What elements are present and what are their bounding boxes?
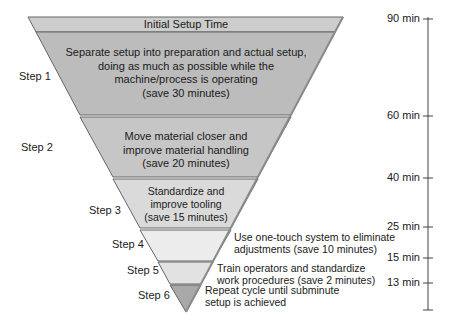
step-2-line-1: Move material closer and (123, 130, 249, 144)
band-step-4 (140, 230, 231, 261)
step-6-line-2: setup is achieved (205, 296, 339, 308)
step-2-description: Move material closer and improve materia… (123, 130, 249, 171)
step-1-label: Step 1 (19, 70, 51, 83)
scale-label-25: 25 min (370, 220, 420, 232)
band-step-6 (170, 285, 201, 312)
scale-label-15: 15 min (370, 251, 420, 263)
step-5-line-1: Train operators and standardize (217, 262, 375, 274)
scale-label-40: 40 min (370, 171, 420, 183)
step-3-label: Step 3 (89, 204, 121, 217)
step-1-line-3: machine/process is operating (66, 73, 307, 87)
step-3-line-1: Standardize and (144, 185, 227, 198)
scale-label-90: 90 min (370, 12, 420, 24)
step-1-line-1: Separate setup into preparation and actu… (66, 46, 307, 60)
step-3-description: Standardize and improve tooling (save 15… (144, 185, 227, 224)
step-1-description: Separate setup into preparation and actu… (66, 46, 307, 100)
step-1-line-2: doing as much as possible while the (66, 60, 307, 74)
band-step-5 (158, 262, 213, 284)
step-4-line-1: Use one-touch system to eliminate (234, 231, 395, 243)
step-6-label: Step 6 (138, 289, 170, 302)
step-1-line-4: (save 30 minutes) (66, 87, 307, 101)
step-5-description: Train operators and standardize work pro… (217, 262, 375, 286)
step-5-label: Step 5 (127, 264, 159, 277)
step-2-line-2: improve material handling (123, 144, 249, 158)
step-2-line-3: (save 20 minutes) (123, 157, 249, 171)
step-2-label: Step 2 (21, 141, 53, 154)
step-4-label: Step 4 (112, 238, 144, 251)
step-3-line-2: improve tooling (144, 198, 227, 211)
step-3-line-3: (save 15 minutes) (144, 211, 227, 224)
step-6-line-1: Repeat cycle until subminute (205, 284, 339, 296)
scale-label-13: 13 min (370, 276, 420, 288)
scale-label-60: 60 min (370, 109, 420, 121)
step-6-description: Repeat cycle until subminute setup is ac… (205, 284, 339, 308)
initial-setup-time-title: Initial Setup Time (144, 18, 228, 31)
